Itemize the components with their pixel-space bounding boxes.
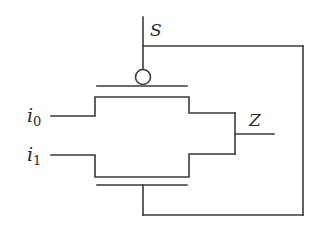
output-label: Z bbox=[248, 110, 262, 130]
i0-channel-path bbox=[51, 97, 235, 116]
inversion-bubble-icon bbox=[136, 70, 151, 85]
select-label: S bbox=[150, 20, 162, 40]
input1-label: i1 bbox=[27, 143, 41, 168]
input0-label: i0 bbox=[27, 104, 41, 129]
input0-subscript: 0 bbox=[33, 114, 41, 129]
i1-channel-path bbox=[51, 154, 235, 177]
mux-circuit-diagram: S Z i0 i1 bbox=[0, 0, 325, 230]
input1-subscript: 1 bbox=[33, 153, 41, 168]
